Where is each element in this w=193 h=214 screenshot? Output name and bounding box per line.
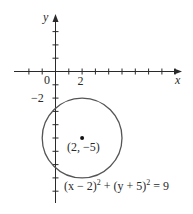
x-axis xyxy=(14,69,182,75)
x-axis-label: x xyxy=(174,73,181,87)
y-axis-arrow-icon xyxy=(53,14,59,22)
center-label: (2, −5) xyxy=(67,140,100,154)
circle-graph: y x 0 2 −2 (2, −5) (x − 2)2 + (y + 5)2 =… xyxy=(0,0,193,214)
y-axis-label: y xyxy=(42,10,49,24)
y-tick-label-neg2: −2 xyxy=(31,91,44,105)
x-tick-label-2: 2 xyxy=(78,74,84,88)
origin-label: 0 xyxy=(44,73,50,87)
equation-part-3: = 9 xyxy=(150,179,169,193)
equation-part-2: + (y + 5) xyxy=(101,179,147,193)
equation-part-1: (x − 2) xyxy=(64,179,97,193)
circle-equation: (x − 2)2 + (y + 5)2 = 9 xyxy=(64,178,169,193)
